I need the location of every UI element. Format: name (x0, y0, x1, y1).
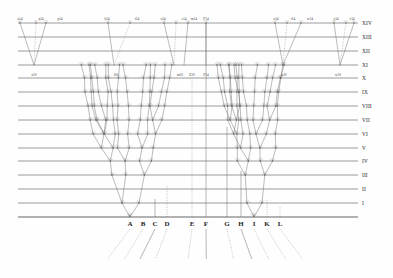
mid-label-w10: w10 (335, 73, 341, 77)
terminal-twig (162, 21, 164, 23)
top-label-y14: y14 (333, 17, 338, 21)
branch-segment (220, 65, 223, 78)
terminal-twig (20, 21, 22, 23)
branch-segment (96, 120, 104, 134)
branch-segment (143, 65, 146, 78)
branch-node (234, 64, 235, 65)
branch-segment (156, 120, 162, 134)
branch-segment (232, 106, 237, 120)
descent-stem-A (108, 229, 131, 259)
terminal-twig (346, 21, 348, 23)
species-label-G: G (224, 220, 230, 228)
branch-segment (265, 78, 267, 92)
branch-segment (92, 78, 94, 92)
numeral-XIV: XIV (362, 20, 372, 26)
branch-segment (165, 65, 166, 78)
branch-segment (142, 134, 148, 148)
descent-stem-L (280, 229, 303, 259)
branch-segment (125, 148, 129, 161)
branch-segment (153, 120, 156, 134)
branch-segment (244, 92, 247, 106)
upper-fan-branches (18, 21, 355, 65)
top-label-a14: a14 (18, 17, 23, 21)
branch-segment (253, 120, 256, 134)
descent-stem-H (241, 229, 252, 259)
terminal-twig (44, 21, 46, 23)
branch-segment (111, 92, 113, 106)
mid-label-n10: n10 (281, 73, 286, 77)
branch-segment (253, 106, 254, 120)
terminal-twig (186, 21, 188, 23)
upper-branch (164, 23, 174, 65)
top-label-F14: F14 (203, 17, 209, 21)
branch-node (282, 64, 283, 65)
branch-segment (139, 161, 144, 175)
terminal-twig (188, 21, 190, 23)
descent-stem-G (227, 229, 234, 259)
descent-stem-E (188, 229, 192, 259)
terminal-twig (299, 21, 301, 23)
species-label-D: D (164, 220, 169, 228)
branch-segment (98, 92, 101, 106)
top-label-n14: n14 (273, 17, 278, 21)
branch-segment (167, 78, 170, 92)
numeral-IX: IX (362, 89, 368, 95)
numeral-II: II (362, 186, 366, 192)
species-label-I: I (253, 220, 256, 228)
terminal-twig (174, 21, 176, 23)
branch-segment (110, 161, 112, 175)
numeral-X: X (362, 75, 366, 81)
branch-node (171, 64, 172, 65)
branch-segment (113, 134, 115, 148)
branch-segment (110, 148, 113, 161)
branch-segment (237, 120, 239, 134)
branch-segment (240, 148, 248, 161)
branch-segment (138, 134, 143, 148)
upper-branch (340, 23, 346, 65)
terminal-twig (130, 21, 132, 23)
species-label-L: L (278, 220, 283, 228)
terminal-twig (128, 21, 130, 23)
branch-segment (254, 203, 262, 217)
top-label-e14: e14 (182, 17, 187, 21)
branch-segment (97, 78, 98, 92)
branch-segment (260, 134, 266, 148)
branch-segment (223, 78, 224, 92)
mid-label-m10: m10 (177, 73, 183, 77)
terminal-twig (334, 21, 336, 23)
branch-node (241, 64, 242, 65)
descent-stem-C (140, 229, 155, 259)
species-label-H: H (238, 220, 244, 228)
branch-segment (151, 148, 153, 161)
branch-segment (217, 65, 218, 78)
branch-segment (230, 106, 232, 120)
branch-node (238, 64, 239, 65)
branch-segment (93, 134, 101, 148)
terminal-twig (275, 21, 277, 23)
baseline-stems (108, 229, 303, 259)
numeral-VII: VII (362, 117, 370, 123)
branch-segment (118, 65, 119, 78)
branch-segment (255, 78, 256, 92)
terminal-twig (108, 21, 110, 23)
upper-branch (334, 23, 340, 65)
branch-node (122, 64, 123, 65)
species-label-E: E (190, 220, 195, 228)
upper-branch (283, 23, 301, 65)
darwin-divergence-figure: XIVXIIIXIIXIXIXVIIIVIIVIVIVIIIIII ABCDEF… (0, 0, 393, 278)
top-label-p14: p14 (57, 17, 62, 21)
branch-node (81, 64, 82, 65)
branch-segment (242, 78, 243, 92)
branch-segment (140, 106, 141, 120)
branch-node (229, 64, 230, 65)
branch-segment (228, 120, 234, 134)
top-label-b14: b14 (104, 17, 109, 21)
top-label-q14: q14 (38, 17, 43, 21)
upper-branch (174, 23, 176, 65)
upper-branch (108, 23, 114, 65)
branch-segment (107, 92, 108, 106)
branch-segment (117, 92, 118, 106)
upper-branch (184, 23, 188, 65)
branch-segment (144, 161, 151, 175)
branch-segment (117, 106, 118, 120)
